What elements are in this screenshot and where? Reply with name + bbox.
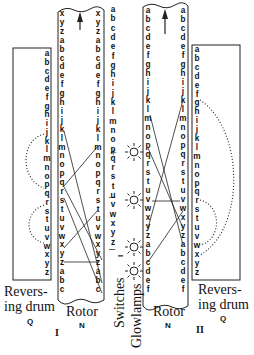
roman-numeral-left: I xyxy=(55,327,59,338)
letter: a xyxy=(111,5,116,14)
right-drum-letters: abcdefghijklmnopqrstuvwxyz xyxy=(193,45,201,277)
letter: g xyxy=(59,89,64,98)
letter: h xyxy=(180,69,185,78)
letter: v xyxy=(60,223,65,232)
letter: o xyxy=(95,160,100,169)
letter: d xyxy=(110,33,115,42)
letter: b xyxy=(110,14,115,23)
letter: u xyxy=(145,186,150,195)
letter: c xyxy=(96,285,101,294)
letter: l xyxy=(112,107,114,116)
letter: v xyxy=(195,232,200,241)
glowlamp-icon xyxy=(125,143,143,161)
letter: l xyxy=(196,143,198,152)
letter: i xyxy=(46,119,48,128)
letter: a xyxy=(96,36,101,45)
letter: n xyxy=(194,161,199,170)
letter: d xyxy=(180,267,185,276)
letter: i xyxy=(147,78,149,87)
left-drum-label-line1: Revers- xyxy=(4,284,48,299)
letter: o xyxy=(180,132,185,141)
roman-numeral-right: II xyxy=(196,324,204,335)
wire xyxy=(148,211,183,262)
letter: e xyxy=(195,81,200,90)
letter: j xyxy=(146,87,149,96)
letter: m xyxy=(193,152,200,161)
letter: f xyxy=(182,285,185,294)
letter: c xyxy=(60,54,65,63)
letter: h xyxy=(145,69,150,78)
letter: c xyxy=(195,63,200,72)
letter: a xyxy=(146,240,151,249)
letter: z xyxy=(96,27,100,36)
letter: m xyxy=(94,143,101,152)
letter: q xyxy=(194,187,199,196)
rotor-2-code: N xyxy=(165,321,171,330)
letter: x xyxy=(111,219,116,228)
letter: l xyxy=(61,134,63,143)
right-drum-loop-2 xyxy=(200,200,217,245)
letter: j xyxy=(45,128,48,137)
letter: n xyxy=(180,123,185,132)
wire xyxy=(148,100,183,228)
letter: b xyxy=(95,45,100,54)
left-drum-label-line2: ing drum xyxy=(4,299,55,314)
letter: n xyxy=(44,163,49,172)
letter: j xyxy=(60,116,63,125)
letter: o xyxy=(145,132,150,141)
letter: s xyxy=(45,207,50,216)
letter: j xyxy=(195,125,198,134)
letter: e xyxy=(96,71,101,80)
wire xyxy=(150,115,183,245)
letter: v xyxy=(181,195,186,204)
letter: l xyxy=(182,105,184,114)
letter: r xyxy=(195,196,199,205)
letter: k xyxy=(146,96,151,105)
glowlamps-label: Glowlamps xyxy=(129,283,144,348)
letter: d xyxy=(44,75,49,84)
letter: k xyxy=(111,98,116,107)
letter: q xyxy=(44,189,49,198)
enigma-wiring-diagram: abcdefghijklmnopqrstuvwxyz xyzabcdefghij… xyxy=(0,0,254,355)
letter: r xyxy=(146,159,150,168)
letter: j xyxy=(181,87,184,96)
letter: b xyxy=(145,249,150,258)
letter: d xyxy=(59,62,64,71)
letter: a xyxy=(45,49,50,58)
letter: h xyxy=(110,70,115,79)
letter: t xyxy=(46,215,49,224)
letter: e xyxy=(146,276,151,285)
letter: x xyxy=(96,9,101,18)
rotor-1-up-arrow-icon xyxy=(77,12,83,22)
minus-sign-1: – xyxy=(108,189,116,203)
letter: y xyxy=(45,259,50,268)
letter: x xyxy=(60,9,65,18)
letter: s xyxy=(146,168,151,177)
letter: g xyxy=(180,60,185,69)
letter: r xyxy=(60,187,64,196)
letter: r xyxy=(45,198,49,207)
letter: b xyxy=(59,276,64,285)
letter: c xyxy=(60,285,65,294)
letter: y xyxy=(111,228,116,237)
letter: a xyxy=(146,6,151,15)
letter: f xyxy=(182,51,185,60)
glowlamp-icon xyxy=(125,191,143,209)
letter: n xyxy=(95,151,100,160)
letter: t xyxy=(147,177,150,186)
letter: r xyxy=(96,187,100,196)
switches-label: Switches xyxy=(112,277,127,328)
letter: p xyxy=(95,169,100,178)
glowlamp-icon xyxy=(125,238,143,256)
letter: y xyxy=(60,18,65,27)
letter: s xyxy=(111,172,116,181)
center-letters: abcdefghijklmnopqrstuvwxyz xyxy=(109,5,117,247)
plus-sign: + xyxy=(110,146,117,160)
letter: k xyxy=(96,125,101,134)
letter: s xyxy=(96,196,101,205)
letter: h xyxy=(194,107,199,116)
letter: y xyxy=(195,259,200,268)
letter: s xyxy=(181,168,186,177)
letter: l xyxy=(147,105,149,114)
letter: t xyxy=(97,205,100,214)
